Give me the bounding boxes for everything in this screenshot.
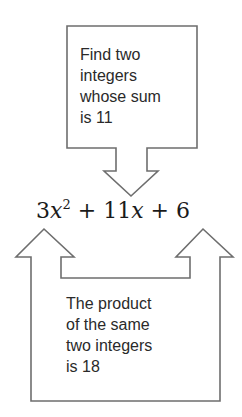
coefficient-b: 11 [103, 198, 131, 223]
bottom-box-line: is 18 [66, 356, 152, 377]
plus-operator: + [78, 198, 96, 223]
top-box-line: whose sum [80, 86, 161, 107]
bottom-box-line: of the same [66, 314, 152, 335]
plus-operator: + [151, 198, 169, 223]
bottom-box-line: The product [66, 293, 152, 314]
bottom-box-line: two integers [66, 335, 152, 356]
quadratic-equation: 3x2+11x+6 [36, 198, 190, 223]
top-box-line: integers [80, 65, 161, 86]
variable-x: x [50, 198, 62, 223]
variable-x: x [131, 198, 143, 223]
top-box-line: Find two [80, 44, 161, 65]
coefficient-a: 3 [36, 198, 50, 223]
exponent: 2 [62, 197, 70, 212]
top-box-line: is 11 [80, 107, 161, 128]
bottom-box-text: The product of the same two integers is … [66, 293, 152, 377]
top-box-text: Find two integers whose sum is 11 [80, 44, 161, 128]
constant-c: 6 [176, 198, 190, 223]
